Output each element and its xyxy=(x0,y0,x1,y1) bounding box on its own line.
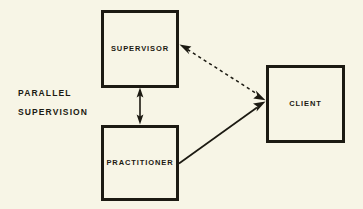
node-client-label: CLIENT xyxy=(289,100,321,108)
parallel-supervision-diagram: SUPERVISOR PRACTITIONER CLIENT PARALLEL … xyxy=(0,0,363,209)
node-practitioner[interactable]: PRACTITIONER xyxy=(101,125,179,201)
edge-supervisor-client-line xyxy=(188,50,257,94)
node-practitioner-label: PRACTITIONER xyxy=(106,159,173,167)
node-client[interactable]: CLIENT xyxy=(266,65,345,143)
node-supervisor-label: SUPERVISOR xyxy=(111,45,169,53)
edge-practitioner-client-line xyxy=(179,108,257,164)
arrowhead-to-supervisor xyxy=(180,44,192,54)
caption-line-parallel: PARALLEL xyxy=(18,84,88,103)
diagram-caption: PARALLEL SUPERVISION xyxy=(18,84,88,122)
edge-supervisor-client xyxy=(180,44,266,100)
edge-practitioner-client xyxy=(179,101,266,163)
edge-supervisor-practitioner xyxy=(137,88,144,125)
caption-line-supervision: SUPERVISION xyxy=(18,103,88,122)
node-supervisor[interactable]: SUPERVISOR xyxy=(101,10,179,88)
